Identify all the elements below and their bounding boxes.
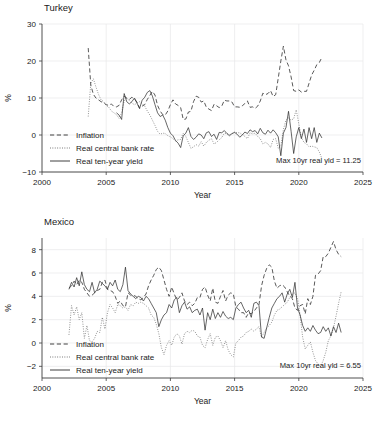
chart-svg-mexico: −202468200020052010201520202025Year%Max …: [0, 212, 376, 424]
x-axis-title: Year: [194, 190, 211, 200]
x-tick-label: 2020: [290, 384, 308, 393]
y-tick-label: 10: [27, 94, 36, 103]
legend-item-real-central-bank-rate[interactable]: Real central bank rate: [50, 353, 155, 362]
y-tick-label: −2: [27, 362, 37, 371]
y-axis-title: %: [3, 304, 13, 312]
legend-item-real-ten-year-yield[interactable]: Real ten-year yield: [50, 157, 143, 166]
x-tick-label: 2015: [226, 178, 244, 187]
y-tick-label: 30: [27, 20, 36, 29]
y-tick-label: 6: [32, 269, 37, 278]
legend-item-real-central-bank-rate[interactable]: Real central bank rate: [50, 144, 155, 153]
legend-item-real-ten-year-yield[interactable]: Real ten-year yield: [50, 366, 143, 375]
figure-two-panel-chart: Turkey −10010203020002005201020152020202…: [0, 0, 376, 424]
legend-item-inflation[interactable]: Inflation: [50, 131, 104, 140]
y-tick-label: 0: [32, 339, 37, 348]
x-tick-label: 2020: [290, 178, 308, 187]
panel-title-turkey: Turkey: [44, 2, 73, 13]
legend-label: Real central bank rate: [76, 144, 155, 153]
y-tick-label: 4: [32, 292, 37, 301]
x-tick-label: 2010: [162, 384, 180, 393]
next-panel-cutoff: [0, 406, 376, 424]
series-line-real-ten-year-yield: [69, 267, 341, 338]
series-line-inflation: [69, 242, 341, 318]
y-tick-label: 8: [32, 246, 37, 255]
x-tick-label: 2005: [97, 384, 115, 393]
x-tick-label: 2025: [354, 384, 372, 393]
y-tick-label: 0: [32, 131, 37, 140]
panel-title-mexico: Mexico: [44, 216, 74, 227]
series-line-inflation: [88, 46, 322, 119]
legend-label: Inflation: [76, 131, 104, 140]
y-tick-label: 20: [27, 57, 36, 66]
legend-label: Real central bank rate: [76, 353, 155, 362]
max-yield-annotation: Max 10yr real yld = 11.25: [276, 156, 361, 165]
panel-mexico: Mexico −202468200020052010201520202025Ye…: [0, 212, 376, 424]
x-tick-label: 2010: [162, 178, 180, 187]
x-tick-label: 2005: [97, 178, 115, 187]
x-tick-label: 2000: [33, 178, 51, 187]
legend-label: Real ten-year yield: [76, 157, 143, 166]
x-tick-label: 2025: [354, 178, 372, 187]
x-tick-label: 2015: [226, 384, 244, 393]
x-axis-title: Year: [194, 396, 211, 406]
chart-svg-turkey: −100102030200020052010201520202025Year%M…: [0, 0, 376, 212]
legend-label: Inflation: [76, 340, 104, 349]
legend-label: Real ten-year yield: [76, 366, 143, 375]
legend-item-inflation[interactable]: Inflation: [50, 340, 104, 349]
max-yield-annotation: Max 10yr real yld = 6.55: [280, 361, 361, 370]
y-axis-title: %: [3, 94, 13, 102]
y-tick-label: −10: [22, 168, 36, 177]
x-tick-label: 2000: [33, 384, 51, 393]
panel-turkey: Turkey −10010203020002005201020152020202…: [0, 0, 376, 212]
y-tick-label: 2: [32, 316, 37, 325]
